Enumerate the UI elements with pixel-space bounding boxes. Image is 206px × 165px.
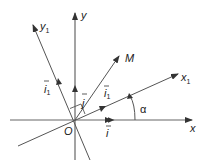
x1-axis <box>18 74 178 146</box>
svg-text:i1: i1 <box>44 83 50 96</box>
svg-text:i1: i1 <box>104 87 110 100</box>
label-y1: y1 <box>39 20 50 34</box>
label-M: M <box>125 52 135 64</box>
svg-text:i: i <box>106 127 109 139</box>
label-vector-i1: i1 <box>104 86 110 100</box>
y1-axis <box>33 25 90 160</box>
label-x1: x1 <box>180 71 191 85</box>
label-O: O <box>64 125 73 137</box>
label-vector-i: i <box>106 126 111 139</box>
label-alpha: α <box>140 103 147 115</box>
label-vector-j1: i1 <box>44 81 50 96</box>
axes-diagram: y y1 M x1 x O α j i i1 i1 <box>0 0 206 165</box>
alpha-arc <box>130 96 135 120</box>
arrowhead-i1 <box>99 106 106 112</box>
label-x: x <box>189 122 196 134</box>
label-vector-j: j <box>80 94 87 109</box>
arrowhead-i <box>105 117 112 123</box>
arrowhead-j <box>72 85 78 92</box>
svg-text:j: j <box>80 97 85 109</box>
label-y: y <box>80 9 88 21</box>
